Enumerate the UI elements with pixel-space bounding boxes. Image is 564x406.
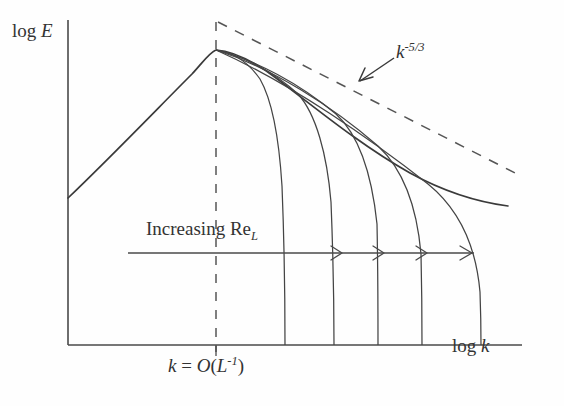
peak-label-length-scale: L [217,355,228,376]
peak-label-order: O [197,355,211,376]
increasing-reynolds-label: Increasing ReL [146,219,258,242]
spectrum-curve-re-1 [216,50,285,345]
reynolds-label-subscript: L [251,229,258,243]
slope-label-exponent: -5/3 [404,40,424,54]
reynolds-label-text: Increasing Re [146,218,251,239]
peak-label-close-paren: ) [238,355,244,376]
kolmogorov-slope-dashed-line [218,22,521,176]
y-axis-label: log E [12,21,53,40]
x-axis-label: log k [452,336,489,355]
spectrum-curve-re-2 [216,50,334,345]
peak-label-equals: = [176,355,196,376]
spectrum-envelope-curve [68,50,508,206]
y-axis-label-symbol: E [41,20,53,41]
spectrum-curve-re-5 [216,50,481,345]
spectrum-curve-re-4 [216,50,422,345]
axis-group [68,20,522,345]
y-axis-label-prefix: log [12,20,41,41]
x-axis-label-symbol: k [481,335,489,356]
peak-label-exponent: -1 [227,354,237,368]
x-axis-label-prefix: log [452,335,481,356]
slope-label-pointer-arrow [359,58,394,81]
kolmogorov-slope-label: k-5/3 [396,41,425,61]
increasing-reynolds-arrow-line [128,246,474,260]
energy-spectrum-figure: log E log k k = O(L-1) k-5/3 Increasing … [0,0,564,406]
peak-wavenumber-label: k = O(L-1) [168,355,244,375]
